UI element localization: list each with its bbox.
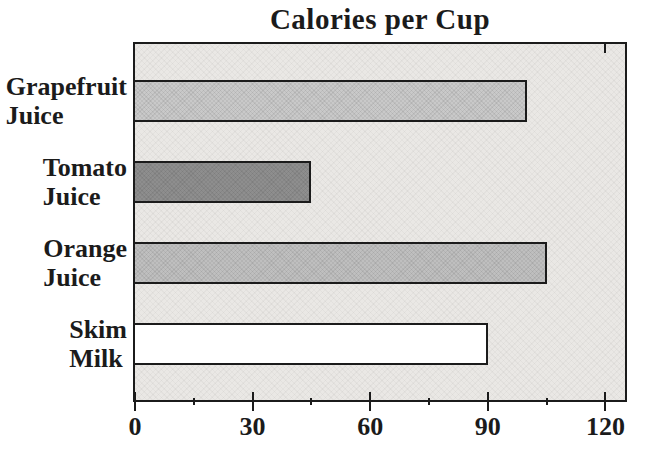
x-tick-label-90: 90 <box>453 412 523 442</box>
x-tick-60 <box>369 392 371 411</box>
x-tick-90 <box>487 392 489 411</box>
top-tick-120 <box>604 44 606 53</box>
category-label-line: Skim <box>69 315 127 344</box>
category-label-skim-milk: SkimMilk <box>69 315 127 373</box>
x-tick-0 <box>134 392 136 411</box>
bar-tomato-juice <box>133 161 311 203</box>
x-tick-label-30: 30 <box>218 412 288 442</box>
bar-chart-figure: Calories per Cup GrapefruitJuiceTomatoJu… <box>0 0 653 457</box>
chart-title: Calories per Cup <box>133 3 627 36</box>
bar-skim-milk <box>133 323 488 365</box>
x-tick-label-0: 0 <box>100 412 170 442</box>
x-minor-tick-45 <box>310 398 312 405</box>
category-label-line: Juice <box>43 182 127 211</box>
category-label-line: Orange <box>43 234 127 263</box>
category-label-line: Milk <box>69 344 127 373</box>
category-label-line: Grapefruit <box>6 72 127 101</box>
category-label-line: Juice <box>43 263 127 292</box>
category-label-grapefruit-juice: GrapefruitJuice <box>6 72 127 130</box>
x-minor-tick-105 <box>546 398 548 405</box>
bar-orange-juice <box>133 242 547 284</box>
x-tick-120 <box>604 392 606 411</box>
category-label-line: Juice <box>6 101 127 130</box>
x-tick-label-120: 120 <box>570 412 640 442</box>
x-minor-tick-15 <box>193 398 195 405</box>
bar-grapefruit-juice <box>133 80 527 122</box>
x-tick-30 <box>252 392 254 411</box>
x-tick-label-60: 60 <box>335 412 405 442</box>
x-minor-tick-75 <box>428 398 430 405</box>
category-label-line: Tomato <box>43 153 127 182</box>
category-label-orange-juice: OrangeJuice <box>43 234 127 292</box>
plot-area <box>133 42 627 402</box>
category-label-tomato-juice: TomatoJuice <box>43 153 127 211</box>
